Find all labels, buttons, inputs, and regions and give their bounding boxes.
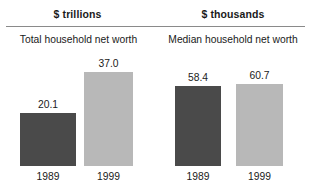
bar-median-1999	[236, 84, 283, 166]
chart-figure: $ trillions $ thousands Total household …	[0, 0, 311, 192]
year-label-total-1999: 1999	[84, 171, 133, 182]
value-label-median-1989: 58.4	[175, 72, 221, 83]
bar-total-1999	[84, 72, 133, 166]
value-label-median-1999: 60.7	[236, 70, 283, 81]
value-label-total-1989: 20.1	[20, 99, 76, 110]
year-label-total-1989: 1989	[20, 171, 76, 182]
panel-subtitle-total-household-net-worth: Total household net worth	[2, 34, 155, 45]
panel-subtitle-median-household-net-worth: Median household net worth	[156, 34, 310, 45]
panel-header-thousands: $ thousands	[155, 8, 311, 20]
bar-median-1989	[175, 86, 221, 166]
year-label-median-1999: 1999	[236, 171, 283, 182]
panel-header-trillions: $ trillions	[0, 8, 155, 20]
header-divider-rule	[6, 26, 305, 27]
value-label-total-1999: 37.0	[84, 58, 133, 69]
year-label-median-1989: 1989	[175, 171, 221, 182]
bar-total-1989	[20, 113, 76, 166]
